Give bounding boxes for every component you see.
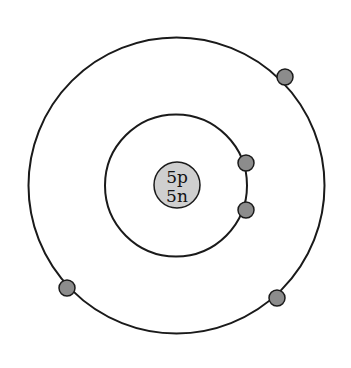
electron [277, 69, 293, 85]
neutrons-label: 5n [166, 186, 188, 206]
electron [238, 202, 254, 218]
protons-label: 5p [166, 167, 188, 187]
nucleus: 5p 5n [154, 162, 200, 208]
atom-diagram: 5p 5n [0, 0, 351, 368]
electron [269, 290, 285, 306]
electron [59, 280, 75, 296]
electron [238, 155, 254, 171]
